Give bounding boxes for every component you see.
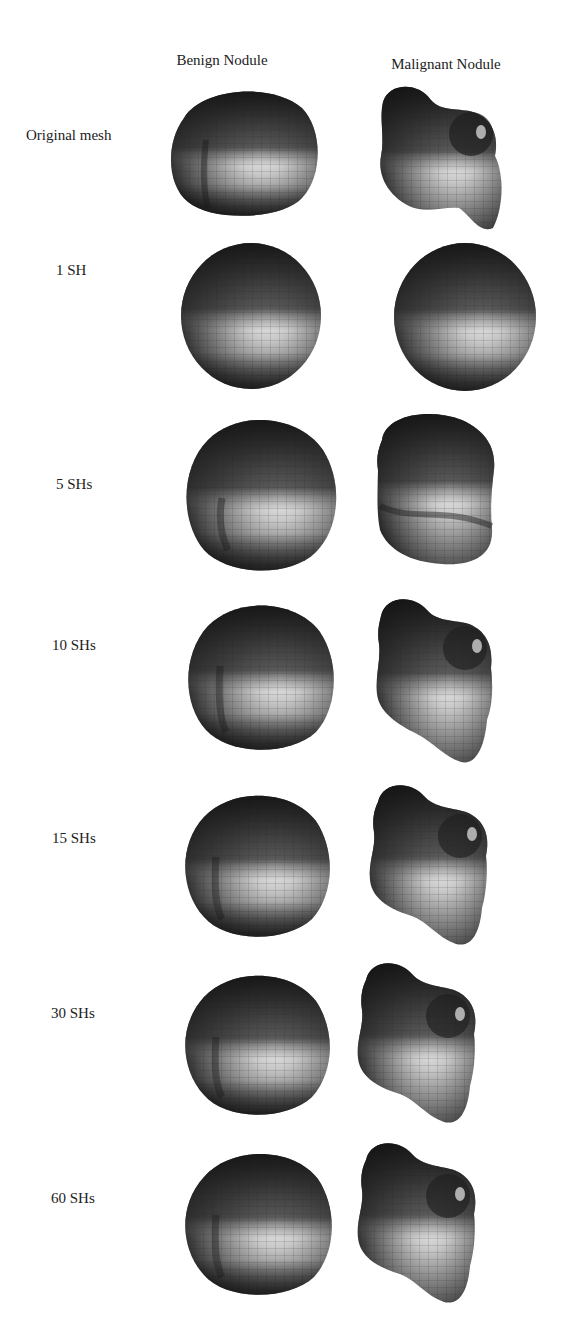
benign-mesh-original <box>162 80 322 222</box>
row-label-15-shs: 15 SHs <box>52 830 96 847</box>
benign-mesh-10-shs <box>178 596 338 754</box>
benign-mesh-30-shs <box>176 965 334 1121</box>
benign-mesh-5-shs <box>178 410 340 576</box>
malignant-mesh-1-sh <box>393 242 537 392</box>
malignant-mesh-15-shs <box>366 782 492 948</box>
malignant-mesh-30-shs <box>356 960 478 1126</box>
malignant-mesh-10-shs <box>373 596 497 764</box>
benign-mesh-15-shs <box>176 785 334 943</box>
row-label-30-shs: 30 SHs <box>51 1005 95 1022</box>
benign-mesh-60-shs <box>176 1143 336 1301</box>
column-header-benign: Benign Nodule <box>176 52 267 69</box>
row-label-5-shs: 5 SHs <box>56 476 92 493</box>
row-label-original-mesh: Original mesh <box>26 127 111 144</box>
row-label-10-shs: 10 SHs <box>52 637 96 654</box>
column-header-malignant: Malignant Nodule <box>391 56 501 73</box>
benign-mesh-1-sh <box>180 242 322 390</box>
malignant-mesh-original <box>375 82 507 232</box>
row-label-1-sh: 1 SH <box>56 262 86 279</box>
malignant-mesh-5-shs <box>372 410 498 566</box>
malignant-mesh-60-shs <box>356 1140 478 1306</box>
row-label-60-shs: 60 SHs <box>51 1190 95 1207</box>
